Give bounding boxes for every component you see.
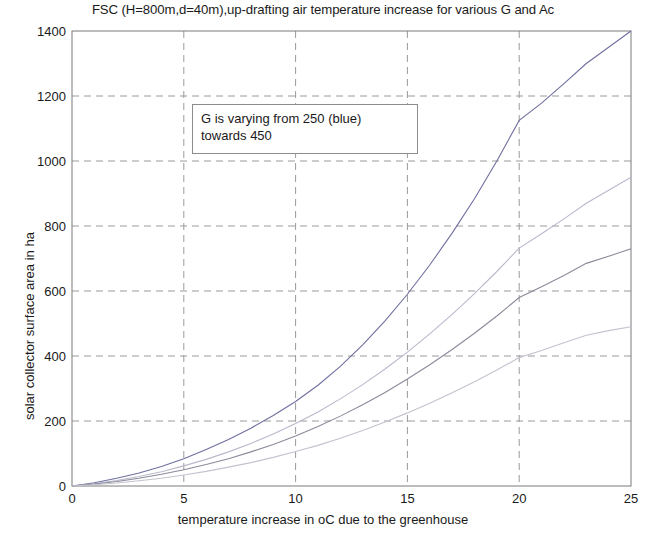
data-series-line [72,177,631,486]
plot-canvas [0,0,646,539]
annotation-box: G is varying from 250 (blue) towards 450 [192,104,418,154]
data-series-line [72,31,631,486]
annotation-line-1: G is varying from 250 (blue) [201,110,417,127]
data-series-line [72,327,631,486]
plot-frame [72,31,631,486]
data-series-line [72,249,631,486]
annotation-line-2: towards 450 [201,127,417,144]
chart-figure: FSC (H=800m,d=40m),up-drafting air tempe… [0,0,646,539]
